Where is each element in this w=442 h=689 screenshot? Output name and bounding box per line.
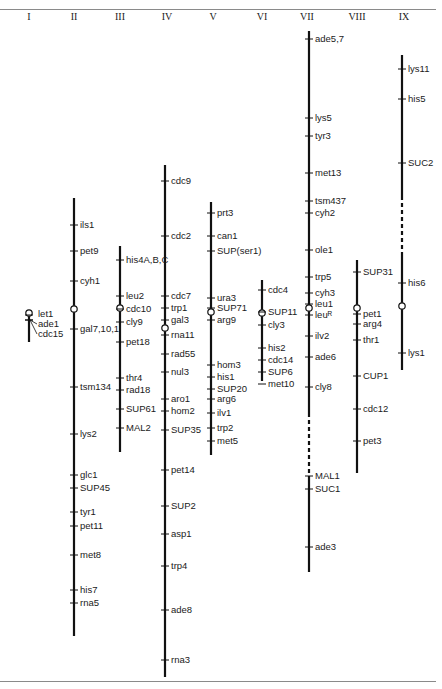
locus-label: cyh1 [80, 276, 100, 286]
centromere-III-icon [117, 305, 123, 311]
locus-label: rna5 [80, 598, 99, 608]
locus-label: cyh2 [315, 208, 335, 218]
locus-label: trp1 [171, 303, 187, 313]
locus-label: SUP6 [268, 367, 293, 377]
locus-label: thr4 [126, 373, 142, 383]
locus-label: ade6 [315, 352, 336, 362]
locus-label: cdc7 [171, 291, 191, 301]
locus-label: rna3 [171, 655, 190, 665]
locus-label: CUP1 [363, 371, 388, 381]
locus-label: tsm134 [80, 382, 111, 392]
locus-label: cly9 [126, 317, 143, 327]
centromere-V-icon [208, 309, 214, 315]
locus-label: hom2 [171, 406, 195, 416]
locus-label: his4A,B,C [126, 255, 168, 265]
locus-label: SUP45 [80, 483, 110, 493]
locus-label: ade8 [171, 605, 192, 615]
locus-label: MAL1 [315, 471, 340, 481]
locus-label: rad18 [126, 385, 150, 395]
locus-label: trp5 [315, 272, 331, 282]
locus-label: pet3 [363, 436, 382, 446]
locus-label: pet11 [80, 521, 103, 531]
locus-label: tsm437 [315, 196, 346, 206]
locus-label: leuᴿ [315, 310, 332, 320]
centromere-VIII-icon [354, 305, 360, 311]
locus-label: SUP2 [171, 501, 196, 511]
locus-label: his1 [217, 372, 234, 382]
locus-label: asp1 [171, 529, 192, 539]
locus-label: tyr1 [80, 507, 96, 517]
locus-label: trp2 [217, 423, 233, 433]
centromere-VI-icon [259, 310, 265, 316]
locus-label: rna11 [171, 330, 195, 340]
locus-label: rad55 [171, 349, 195, 359]
locus-label: ilv2 [315, 331, 329, 341]
locus-label: gal3 [171, 315, 189, 325]
locus-label: prt3 [217, 208, 233, 218]
locus-label: leu1 [315, 299, 333, 309]
locus-label: leu2 [126, 291, 144, 301]
locus-label: aro1 [171, 394, 190, 404]
locus-label: cly3 [268, 320, 285, 330]
locus-label: SUP(ser1) [217, 246, 261, 256]
locus-label: cdc2 [171, 231, 191, 241]
locus-label: ilv1 [217, 408, 231, 418]
locus-label: lys2 [80, 429, 97, 439]
locus-label: nul3 [171, 367, 189, 377]
locus-label: glc1 [80, 470, 97, 480]
locus-label: cdc4 [268, 285, 288, 295]
locus-label: pet18 [126, 337, 150, 347]
locus-label: arg6 [217, 394, 236, 404]
locus-label: hom3 [217, 360, 241, 370]
locus-label: gal7,10,1 [80, 324, 119, 334]
locus-label: ils1 [80, 220, 94, 230]
locus-label: SUC2 [408, 158, 433, 168]
locus-label: ole1 [315, 245, 333, 255]
locus-label: his2 [268, 343, 285, 353]
locus-label: lys5 [315, 113, 332, 123]
locus-label: his7 [80, 585, 97, 595]
locus-label: thr1 [363, 335, 379, 345]
locus-label: SUC1 [315, 484, 340, 494]
locus-label: met13 [315, 168, 341, 178]
locus-label: cdc9 [171, 176, 191, 186]
locus-label: SUP61 [126, 404, 156, 414]
locus-label: lys11 [408, 64, 429, 74]
locus-label: can1 [217, 231, 238, 241]
locus-label: met5 [217, 436, 238, 446]
locus-label: cly8 [315, 382, 332, 392]
locus-label: arg9 [217, 315, 236, 325]
locus-label: pet14 [171, 465, 195, 475]
locus-label: cdc15 [38, 329, 63, 339]
locus-label: ade5,7 [315, 34, 344, 44]
locus-label: his5 [408, 94, 425, 104]
locus-label: MAL2 [126, 423, 151, 433]
centromere-II-icon [71, 306, 77, 312]
locus-label: his6 [408, 278, 425, 288]
locus-label: trp4 [171, 561, 187, 571]
locus-label: SUP11 [268, 307, 297, 317]
centromere-IV-icon [162, 325, 168, 331]
locus-label: lys1 [408, 348, 425, 358]
locus-label: SUP31 [363, 267, 393, 277]
locus-label: cdc14 [268, 355, 293, 365]
centromere-VII-icon [306, 305, 312, 311]
locus-label: pet9 [80, 246, 99, 256]
locus-label: cyh3 [315, 288, 335, 298]
locus-label: arg4 [363, 319, 382, 329]
locus-label: tyr3 [315, 131, 331, 141]
locus-label: ade3 [315, 542, 336, 552]
centromere-IX-icon [399, 303, 405, 309]
locus-label: SUP35 [171, 425, 201, 435]
locus-label: cdc10 [126, 304, 151, 314]
locus-label: SUP71 [217, 303, 247, 313]
locus-label: met8 [80, 550, 101, 560]
locus-label: cdc12 [363, 404, 388, 414]
locus-label: met10 [268, 379, 294, 389]
